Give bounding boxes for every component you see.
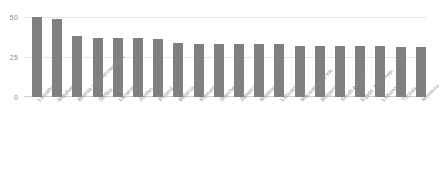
bar-slot [32,17,42,97]
bar [153,39,163,97]
bar-slot [416,17,426,97]
bar-slot [153,17,163,97]
bar-slot [52,17,62,97]
bar [32,17,42,97]
x-axis-labels: LesothoMaldivesBosnia and HerzegovinaSer… [32,99,426,174]
bar-slot [133,17,143,97]
bar [173,43,183,97]
y-axis-tick-label: 0 [0,94,18,101]
y-axis-tick-label: 50 [0,14,18,21]
bar-slot [194,17,204,97]
bar [52,19,62,97]
y-axis-tick-label: 25 [0,54,18,61]
bar-slot [173,17,183,97]
plot-area: 02550 [24,17,426,97]
